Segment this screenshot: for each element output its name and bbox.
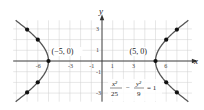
data-point [164, 38, 168, 42]
x-tick-label: -6 [36, 63, 41, 69]
annotations: (−5, 0)(5, 0) [51, 47, 155, 56]
axes [13, 14, 198, 101]
y-tick-label: 3 [96, 26, 99, 32]
y-tick-label: 1 [96, 47, 99, 53]
data-point [175, 27, 179, 31]
x-tick-label: -1 [89, 63, 94, 69]
vertex-label: (5, 0) [130, 47, 148, 56]
equation-y-numerator: y² [135, 80, 142, 88]
y-tick-label: -1 [96, 69, 101, 75]
data-point [164, 80, 168, 84]
y-axis-label: y [98, 6, 103, 16]
data-point [36, 80, 40, 84]
x-tick-label: -3 [68, 63, 73, 69]
x-axis-label: x [193, 56, 198, 66]
equation-rhs: = 1 [147, 84, 157, 92]
equation-minus: − [126, 84, 130, 92]
data-point [175, 90, 179, 94]
data-point [36, 38, 40, 42]
data-point [153, 59, 157, 63]
x-tick-label: 1 [111, 63, 114, 69]
equation-y-denominator: 9 [137, 90, 141, 98]
equation-label: x² 25 − y² 9 = 1 [108, 79, 162, 101]
equation-x-numerator: x² [111, 80, 118, 88]
vertex-label: (−5, 0) [52, 47, 74, 56]
hyperbola-plot: -6-3-113631-1-3 (−5, 0)(5, 0) x y x² 25 … [0, 0, 204, 110]
x-tick-label: 6 [164, 63, 167, 69]
data-point [46, 59, 50, 63]
y-tick-label: -3 [96, 90, 101, 96]
x-tick-label: 3 [132, 63, 135, 69]
data-point [25, 90, 29, 94]
data-point [25, 27, 29, 31]
equation-x-denominator: 25 [111, 90, 119, 98]
